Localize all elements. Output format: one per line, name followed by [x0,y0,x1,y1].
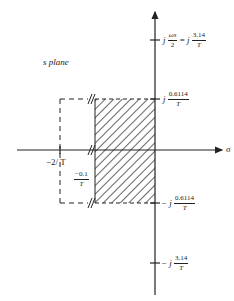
break-marks [88,94,95,208]
tick-label-minus-0-1-over-t: −0.1T [74,171,89,188]
s-plane-label: s plane [43,58,69,67]
tick-label-neg-nyquist: − j 3.14T [161,255,188,272]
tick-label-nyquist: j ωs2 = j 3.14T [163,32,206,49]
tick-label-upper-bound: j 0.6114T [163,91,189,108]
tick-label-minus-2-over-t: −2/ T [46,158,66,167]
hatched-region [95,99,155,203]
tick-label-lower-bound: − j 0.6114T [161,195,195,212]
sigma-label: σ [226,145,230,154]
